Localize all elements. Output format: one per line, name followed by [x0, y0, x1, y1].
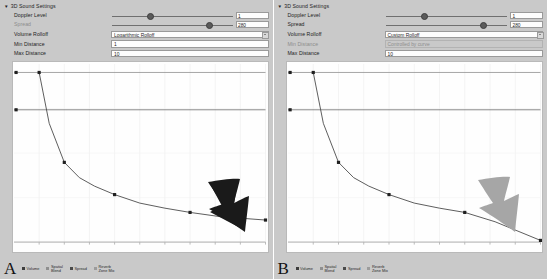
doppler-level-slider[interactable]	[112, 15, 233, 17]
rolloff-curve-chart-a[interactable]	[12, 61, 269, 253]
max-distance-field[interactable]: 10	[111, 50, 269, 58]
row-label: Doppler Level	[14, 12, 47, 18]
row-volume-rolloff: Volume Rolloff Custom Rolloff	[274, 30, 546, 39]
row-label: Volume Rolloff	[14, 31, 48, 37]
triangle-down-icon: ▼	[4, 4, 9, 9]
row-doppler-level: Doppler Level 1	[0, 11, 271, 20]
legend-item-volume[interactable]: Volume	[296, 267, 313, 271]
doppler-level-value[interactable]: 1	[236, 12, 269, 20]
row-label: Min Distance	[288, 41, 319, 47]
min-distance-field[interactable]: 1	[111, 40, 269, 48]
doppler-level-slider[interactable]	[386, 15, 508, 17]
spread-value[interactable]: 280	[236, 21, 269, 29]
legend-label: Reverb Zone Mix	[98, 265, 114, 273]
legend-item-volume[interactable]: Volume	[22, 267, 39, 271]
legend-item-spread[interactable]: Spread	[343, 267, 360, 271]
legend-item-reverb-zone-mix[interactable]: Reverb Zone Mix	[367, 265, 388, 273]
legend-items: Volume Spatial Blend Spread Reverb Zone …	[22, 265, 114, 273]
row-spread: Spread 280	[0, 20, 271, 29]
legend-label: Spatial Blend	[51, 265, 63, 273]
inspector-b: ▼3D Sound Settings Doppler Level 1 Sprea…	[274, 0, 547, 60]
spread-slider[interactable]	[112, 24, 233, 26]
legend-bar-b: B Volume Spatial Blend Spread Reverb Zon…	[274, 253, 547, 279]
doppler-level-value[interactable]: 1	[510, 12, 543, 20]
legend-item-spatial-blend[interactable]: Spatial Blend	[46, 265, 62, 273]
row-volume-rolloff: Volume Rolloff Logarithmic Rolloff	[0, 30, 271, 39]
max-distance-field[interactable]: 10	[385, 50, 544, 58]
row-max-distance: Max Distance 10	[0, 49, 271, 58]
legend-swatch-icon	[343, 267, 346, 270]
row-label: Min Distance	[14, 41, 45, 47]
volume-rolloff-dropdown[interactable]: Custom Rolloff	[385, 31, 544, 39]
row-spread: Spread 280	[274, 20, 546, 29]
row-max-distance: Max Distance 10	[274, 49, 546, 58]
rolloff-curve-chart-b[interactable]	[286, 61, 544, 253]
comparison-screenshot: ▼3D Sound Settings Doppler Level 1 Sprea…	[0, 0, 547, 279]
legend-swatch-icon	[296, 267, 299, 270]
slider-knob[interactable]	[421, 13, 428, 20]
legend-item-reverb-zone-mix[interactable]: Reverb Zone Mix	[94, 265, 115, 273]
section-header-3d-sound-settings[interactable]: ▼3D Sound Settings	[4, 3, 56, 9]
legend-label: Volume	[27, 267, 40, 271]
chart-svg	[287, 62, 543, 252]
legend-bar-a: A Volume Spatial Blend Spread Reverb Zon…	[0, 253, 273, 279]
chevron-down-icon[interactable]	[262, 32, 269, 39]
panel-a: ▼3D Sound Settings Doppler Level 1 Sprea…	[0, 0, 273, 279]
spread-value[interactable]: 280	[510, 21, 543, 29]
legend-label: Spatial Blend	[324, 265, 336, 273]
legend-label: Spread	[74, 267, 87, 271]
legend-label: Reverb Zone Mix	[372, 265, 388, 273]
spread-slider[interactable]	[386, 24, 508, 26]
chevron-down-icon[interactable]	[537, 32, 544, 39]
slider-knob[interactable]	[480, 22, 487, 29]
slider-track	[112, 16, 233, 17]
section-title: 3D Sound Settings	[284, 3, 329, 9]
legend-swatch-icon	[70, 267, 73, 270]
legend-swatch-icon	[367, 267, 370, 270]
legend-swatch-icon	[320, 267, 323, 270]
panel-tag-b: B	[278, 260, 289, 277]
row-label: Spread	[14, 21, 31, 27]
row-label: Max Distance	[288, 50, 320, 56]
chart-svg	[13, 62, 268, 252]
legend-swatch-icon	[94, 267, 97, 270]
slider-knob[interactable]	[147, 13, 154, 20]
inspector-a: ▼3D Sound Settings Doppler Level 1 Sprea…	[0, 0, 273, 60]
row-label: Doppler Level	[288, 12, 321, 18]
legend-swatch-icon	[46, 267, 49, 270]
section-title: 3D Sound Settings	[11, 3, 56, 9]
panel-tag-a: A	[4, 260, 16, 277]
panel-b: ▼3D Sound Settings Doppler Level 1 Sprea…	[273, 0, 547, 279]
legend-label: Spread	[348, 267, 361, 271]
legend-swatch-icon	[22, 267, 25, 270]
legend-item-spatial-blend[interactable]: Spatial Blend	[320, 265, 336, 273]
row-min-distance: Min Distance 1	[0, 40, 271, 49]
row-doppler-level: Doppler Level 1	[274, 11, 546, 20]
slider-track	[386, 16, 508, 17]
volume-rolloff-dropdown[interactable]: Logarithmic Rolloff	[111, 31, 269, 39]
row-label: Max Distance	[14, 50, 46, 56]
slider-track	[112, 25, 233, 26]
min-distance-field: Controlled by curve	[385, 40, 544, 48]
slider-knob[interactable]	[206, 22, 213, 29]
triangle-down-icon: ▼	[278, 4, 283, 9]
section-header-3d-sound-settings[interactable]: ▼3D Sound Settings	[278, 3, 330, 9]
legend-items: Volume Spatial Blend Spread Reverb Zone …	[296, 265, 388, 273]
row-label: Spread	[288, 21, 305, 27]
row-label: Volume Rolloff	[288, 31, 322, 37]
legend-item-spread[interactable]: Spread	[70, 267, 87, 271]
legend-label: Volume	[300, 267, 313, 271]
row-min-distance: Min Distance Controlled by curve	[274, 40, 546, 49]
slider-track	[386, 25, 508, 26]
